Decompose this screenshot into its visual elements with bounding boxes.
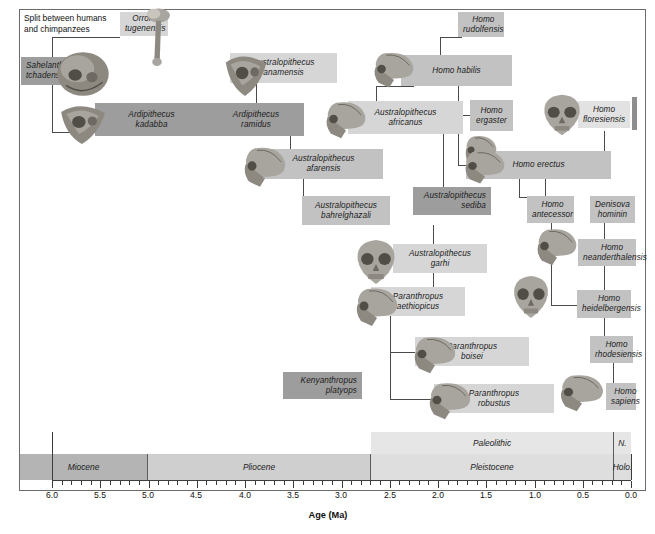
taxon-label-homo-rudolfensis: Homo rudolfensis bbox=[458, 15, 509, 35]
axis-tick-major bbox=[52, 481, 53, 488]
line-erectus-branch bbox=[519, 179, 520, 197]
taxon-label-ardipithecus-kadabba: Ardipithecus kadabba bbox=[95, 110, 208, 130]
axis-tick-minor bbox=[573, 481, 574, 485]
taxon-label-paranthropus-robustus: Paranthropus robustus bbox=[434, 389, 554, 409]
taxon-box-australopithecus-garhi[interactable]: Australopithecus garhi bbox=[393, 244, 487, 273]
axis-tick-minor bbox=[81, 481, 82, 485]
taxon-box-kenyanthropus-platyops[interactable]: Kenyanthropus platyops bbox=[283, 372, 362, 399]
taxon-box-paranthropus-robustus[interactable]: Paranthropus robustus bbox=[434, 384, 554, 413]
taxon-box-homo-antecessor[interactable]: Homo antecessor bbox=[527, 196, 574, 223]
axis-tick-minor bbox=[216, 481, 217, 485]
axis-tick-minor bbox=[477, 481, 478, 485]
axis-tick-minor bbox=[177, 481, 178, 485]
axis-tick-major bbox=[583, 481, 584, 488]
taxon-label-paranthropus-boisei: Paranthropus boisei bbox=[415, 342, 529, 362]
taxon-box-homo-erectus[interactable]: Homo erectus bbox=[466, 151, 611, 179]
taxon-label-australopithecus-afarensis: Australopithecus afarensis bbox=[264, 154, 383, 174]
axis-tick-minor bbox=[361, 481, 362, 485]
axis-tick-minor bbox=[187, 481, 188, 485]
axis-tick-minor bbox=[129, 481, 130, 485]
axis-tick-major bbox=[390, 481, 391, 488]
axis-tick-minor bbox=[235, 481, 236, 485]
taxon-label-paranthropus-aethiopicus: Paranthropus aethiopicus bbox=[371, 292, 465, 312]
taxon-label-australopithecus-sediba: Australopithecus sediba bbox=[413, 191, 491, 211]
axis-tick-minor bbox=[168, 481, 169, 485]
taxon-label-homo-floresiensis: Homo floresiensis bbox=[578, 105, 630, 125]
taxon-label-kenyanthropus-platyops: Kenyanthropus platyops bbox=[283, 376, 362, 396]
taxon-label-australopithecus-garhi: Australopithecus garhi bbox=[393, 249, 487, 269]
taxon-box-homo-habilis[interactable]: Homo habilis bbox=[401, 55, 512, 86]
taxon-box-australopithecus-africanus[interactable]: Australopithecus africanus bbox=[348, 101, 463, 134]
axis-tick-minor bbox=[332, 481, 333, 485]
taxon-box-australopithecus-anamensis[interactable]: Australopithecus anamensis bbox=[230, 53, 337, 83]
axis-tick-minor bbox=[91, 481, 92, 485]
axis-tick-minor bbox=[457, 481, 458, 485]
axis-tick-label: 1.0 bbox=[520, 490, 550, 500]
axis-tick-minor bbox=[284, 481, 285, 485]
floresiensis-range-marker bbox=[632, 97, 637, 130]
axis-tick-label: 5.0 bbox=[133, 490, 163, 500]
axis-tick-major bbox=[197, 481, 198, 488]
axis-tick-minor bbox=[506, 481, 507, 485]
taxon-box-ardipithecus-kadabba[interactable]: Ardipithecus kadabba bbox=[95, 103, 208, 136]
line-erectus-antecessor-stem bbox=[545, 179, 546, 197]
taxon-box-homo-rhodesiensis[interactable]: Homo rhodesiensis bbox=[590, 336, 633, 363]
axis-tick-label: 6.0 bbox=[37, 490, 67, 500]
axis-tick-label: 3.5 bbox=[278, 490, 308, 500]
axis-tick-minor bbox=[399, 481, 400, 485]
hominid-timeline-figure: Split between humans and chimpanzees Orr… bbox=[0, 0, 655, 534]
axis-tick-label: 4.5 bbox=[181, 490, 211, 500]
taxon-label-homo-sapiens: Homo sapiens bbox=[606, 387, 645, 407]
epoch-band-miocene: Miocene bbox=[20, 454, 148, 480]
epoch-band-holocene: Holo. bbox=[614, 454, 631, 480]
axis-tick-major bbox=[100, 481, 101, 488]
axis-tick-minor bbox=[120, 481, 121, 485]
taxon-box-homo-sapiens[interactable]: Homo sapiens bbox=[606, 383, 636, 410]
taxon-box-denisova-hominin[interactable]: Denisova hominin bbox=[590, 196, 635, 223]
taxon-box-orrorin-tugenensis[interactable]: Orrorin tugenensis bbox=[120, 12, 168, 36]
axis-tick-major bbox=[342, 481, 343, 488]
axis-tick-major bbox=[438, 481, 439, 488]
taxon-label-homo-heidelbergensis: Homo heidelbergensis bbox=[577, 294, 641, 314]
taxon-box-paranthropus-boisei[interactable]: Paranthropus boisei bbox=[415, 337, 529, 366]
axis-tick-minor bbox=[62, 481, 63, 485]
taxon-box-homo-ergaster[interactable]: Homo ergaster bbox=[470, 100, 513, 131]
axis-tick-minor bbox=[467, 481, 468, 485]
taxon-box-ardipithecus-ramidus[interactable]: Ardipithecus ramidus bbox=[208, 103, 304, 136]
line-into-heidelbergensis bbox=[551, 305, 578, 306]
axis-tick-minor bbox=[409, 481, 410, 485]
taxon-box-australopithecus-bahrelghazali[interactable]: Australopithecus bahrelghazali bbox=[302, 196, 390, 225]
axis-tick-label: 3.0 bbox=[326, 490, 356, 500]
taxon-label-australopithecus-anamensis: Australopithecus anamensis bbox=[230, 58, 337, 78]
taxon-label-homo-neanderthalensis: Homo neanderthalensis bbox=[578, 243, 646, 263]
axis-tick-minor bbox=[322, 481, 323, 485]
taxon-label-homo-rhodesiensis: Homo rhodesiensis bbox=[590, 340, 643, 360]
taxon-box-homo-floresiensis[interactable]: Homo floresiensis bbox=[578, 101, 630, 128]
taxon-box-homo-neanderthalensis[interactable]: Homo neanderthalensis bbox=[578, 239, 636, 266]
axis-tick-minor bbox=[602, 481, 603, 485]
axis-tick-minor bbox=[255, 481, 256, 485]
taxon-box-australopithecus-sediba[interactable]: Australopithecus sediba bbox=[413, 187, 491, 215]
axis-tick-minor bbox=[554, 481, 555, 485]
axis-tick-minor bbox=[419, 481, 420, 485]
taxon-box-paranthropus-aethiopicus[interactable]: Paranthropus aethiopicus bbox=[371, 287, 465, 316]
axis-tick-minor bbox=[139, 481, 140, 485]
axis-tick-minor bbox=[206, 481, 207, 485]
axis-tick-minor bbox=[351, 481, 352, 485]
axis-tick-minor bbox=[264, 481, 265, 485]
axis-tick-minor bbox=[496, 481, 497, 485]
taxon-box-homo-rudolfensis[interactable]: Homo rudolfensis bbox=[458, 12, 504, 37]
axis-title-label: Age (Ma) bbox=[280, 510, 376, 520]
period-band-paleolithic: Paleolithic bbox=[371, 432, 614, 454]
axis-tick-minor bbox=[525, 481, 526, 485]
axis-tick-minor bbox=[226, 481, 227, 485]
line-erectus-to-floresiensis bbox=[604, 131, 605, 153]
axis-left-stub bbox=[52, 432, 53, 480]
axis-tick-major bbox=[631, 481, 632, 488]
taxon-box-homo-heidelbergensis[interactable]: Homo heidelbergensis bbox=[577, 290, 631, 318]
taxon-label-sahelanthropus-tchadensis: Sahelanthropus tchadensis bbox=[21, 61, 90, 81]
taxon-box-sahelanthropus-tchadensis[interactable]: Sahelanthropus tchadensis bbox=[21, 57, 81, 85]
axis-tick-minor bbox=[313, 481, 314, 485]
taxon-box-australopithecus-afarensis[interactable]: Australopithecus afarensis bbox=[264, 149, 383, 179]
line-root-stem bbox=[52, 37, 53, 133]
